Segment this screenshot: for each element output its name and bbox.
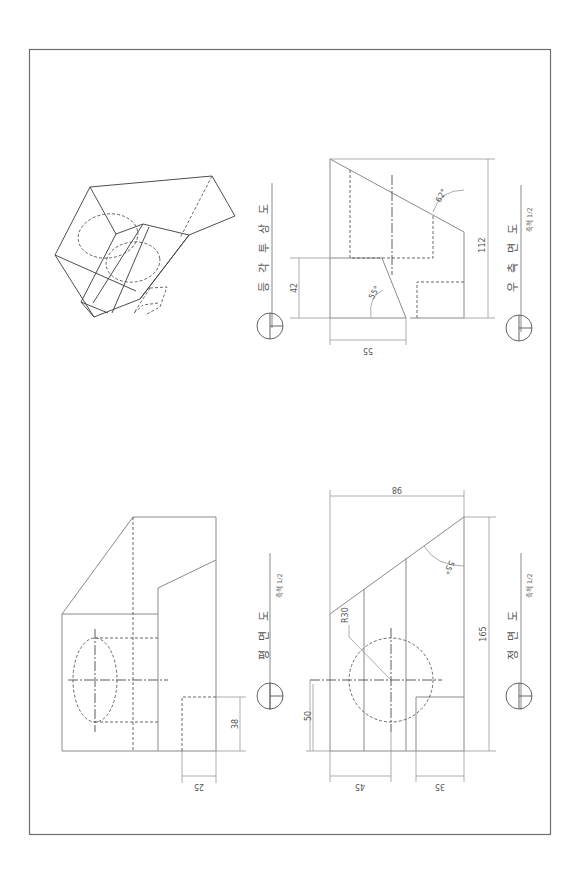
technical-drawing-sheet: 등 각 투 상 도 112 42 55 55° 62° 우 측 면 도 축척 1… — [0, 0, 580, 874]
radius-r30: R30 — [341, 607, 350, 623]
dim-98: 98 — [392, 485, 402, 494]
isometric-view — [55, 176, 235, 317]
right-view-title-block: 우 측 면 도 축척 1/2 — [506, 185, 534, 341]
isometric-view-title: 등 각 투 상 도 — [258, 201, 271, 292]
drawing-frame — [30, 50, 551, 835]
angle-55: 55° — [367, 284, 382, 301]
plan-view-title-block: 평 면 도 축척 1/2 — [257, 553, 284, 710]
dim-112: 112 — [478, 237, 487, 252]
dim-45: 45 — [355, 782, 365, 791]
dim-165: 165 — [479, 626, 488, 641]
dim-55: 55 — [363, 346, 373, 355]
right-view-title: 우 측 면 도 — [507, 221, 520, 293]
dim-25: 25 — [194, 782, 204, 791]
dim-35: 35 — [435, 782, 445, 791]
dim-50: 50 — [304, 711, 313, 721]
plan-view: 38 25 — [62, 517, 246, 791]
plan-view-title: 평 면 도 — [258, 608, 271, 660]
dim-38: 38 — [231, 719, 240, 729]
isometric-title-block: 등 각 투 상 도 — [257, 183, 283, 339]
front-view-scale: 축척 1/2 — [525, 573, 534, 598]
right-view-scale: 축척 1/2 — [525, 207, 534, 232]
right-side-view: 112 42 55 55° 62° — [290, 159, 495, 355]
angle-55-front: 55° — [441, 559, 456, 576]
angle-62: 62° — [434, 187, 449, 204]
front-view: R30 98 165 50 45 35 55° — [304, 485, 496, 791]
dim-42: 42 — [290, 283, 299, 293]
plan-view-scale: 축척 1/2 — [275, 573, 284, 598]
front-view-title-block: 정 면 도 축척 1/2 — [506, 553, 534, 710]
front-view-title: 정 면 도 — [507, 608, 520, 660]
